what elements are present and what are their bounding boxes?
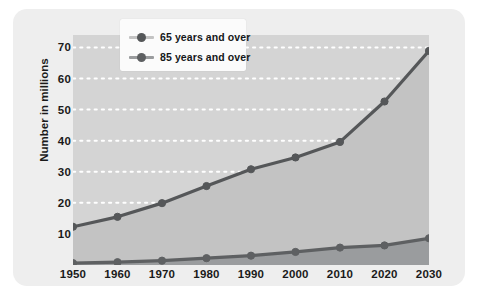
- data-point-series-0-1980: [203, 182, 210, 189]
- data-point-series-1-2000: [292, 248, 299, 255]
- data-point-series-0-2030: [425, 47, 429, 54]
- y-tick-label-20: 20: [45, 197, 71, 209]
- x-tick-label-1980: 1980: [193, 268, 219, 280]
- y-tick-label-60: 60: [45, 73, 71, 85]
- x-tick-label-1950: 1950: [60, 268, 86, 280]
- data-point-series-1-1960: [114, 259, 121, 265]
- data-point-series-0-1950: [73, 223, 77, 230]
- legend-label-65-plus: 65 years and over: [160, 31, 250, 43]
- legend-item-85-plus: 85 years and over: [129, 48, 250, 66]
- legend-dot-swatch: [137, 33, 146, 42]
- chart-figure: Number in millions 10203040506070 195019…: [0, 0, 478, 301]
- y-tick-label-30: 30: [45, 166, 71, 178]
- x-tick-label-1990: 1990: [238, 268, 264, 280]
- legend-marker-icon-65-plus: [129, 33, 154, 42]
- y-tick-label-50: 50: [45, 104, 71, 116]
- legend-dot-swatch: [137, 53, 146, 62]
- chart-card-panel: Number in millions 10203040506070 195019…: [13, 9, 465, 286]
- x-tick-label-1970: 1970: [149, 268, 175, 280]
- y-tick-label-10: 10: [45, 228, 71, 240]
- data-point-series-0-1960: [114, 213, 121, 220]
- data-point-series-1-1970: [158, 257, 165, 264]
- x-tick-label-1960: 1960: [104, 268, 130, 280]
- x-axis-tick-labels: 195019601970198019902000201020202030: [73, 268, 429, 288]
- data-point-series-0-2000: [292, 154, 299, 161]
- x-tick-label-2020: 2020: [371, 268, 397, 280]
- data-point-series-1-2010: [336, 244, 343, 251]
- legend-item-65-plus: 65 years and over: [129, 28, 250, 46]
- data-point-series-1-2020: [381, 242, 388, 249]
- data-point-series-0-1970: [158, 200, 165, 207]
- chart-legend: 65 years and over 85 years and over: [120, 19, 246, 71]
- data-point-series-0-2020: [381, 98, 388, 105]
- y-tick-label-40: 40: [45, 135, 71, 147]
- x-tick-label-2030: 2030: [416, 268, 442, 280]
- legend-label-85-plus: 85 years and over: [160, 51, 250, 63]
- area-fill-series-0: [73, 51, 429, 265]
- data-point-series-0-2010: [336, 138, 343, 145]
- y-axis-tick-labels: 10203040506070: [41, 35, 71, 265]
- data-point-series-1-2030: [425, 235, 429, 242]
- data-point-series-1-1980: [203, 255, 210, 262]
- y-tick-label-70: 70: [45, 41, 71, 53]
- x-tick-label-2010: 2010: [327, 268, 353, 280]
- data-point-series-0-1990: [247, 166, 254, 173]
- data-point-series-1-1990: [247, 252, 254, 259]
- legend-marker-icon-85-plus: [129, 53, 154, 62]
- x-tick-label-2000: 2000: [282, 268, 308, 280]
